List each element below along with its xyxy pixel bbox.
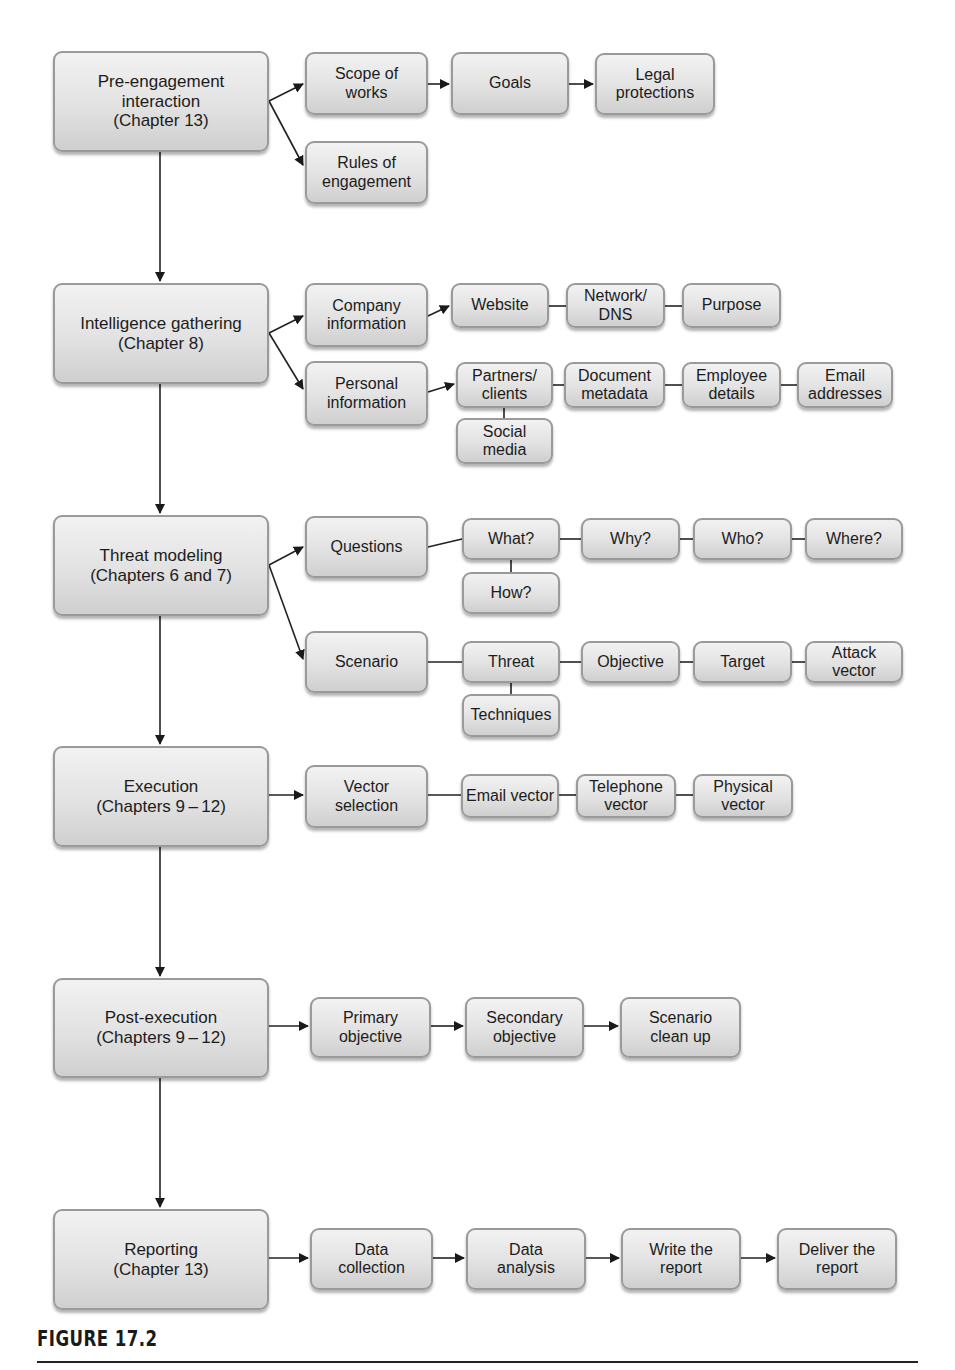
node-how: How? (462, 572, 560, 614)
node-where: Where? (805, 518, 903, 560)
node-data-analysis: Data analysis (466, 1228, 586, 1290)
phase-pre-engagement: Pre-engagement interaction (Chapter 13) (53, 51, 269, 152)
phase-post-execution: Post-execution (Chapters 9 – 12) (53, 978, 269, 1078)
node-social-media: Social media (456, 418, 553, 464)
node-what: What? (462, 518, 560, 560)
phase-execution: Execution (Chapters 9 – 12) (53, 746, 269, 847)
node-rules-of-engagement: Rules of engagement (305, 141, 428, 204)
node-scope-of-works: Scope of works (305, 52, 428, 115)
node-employee-details: Employee details (682, 362, 781, 408)
node-network-dns: Network/ DNS (566, 283, 665, 328)
node-company-information: Company information (305, 283, 428, 347)
node-vector-selection: Vector selection (305, 765, 428, 828)
node-document-metadata: Document metadata (564, 362, 665, 408)
node-who: Who? (693, 518, 792, 560)
node-target: Target (693, 641, 792, 683)
node-legal-protections: Legal protections (595, 53, 715, 115)
phase-threat-modeling: Threat modeling (Chapters 6 and 7) (53, 515, 269, 616)
node-write-the-report: Write the report (621, 1228, 741, 1290)
node-why: Why? (581, 518, 680, 560)
phase-reporting: Reporting (Chapter 13) (53, 1209, 269, 1310)
node-attack-vector: Attack vector (805, 641, 903, 683)
node-email-vector: Email vector (461, 774, 559, 818)
node-telephone-vector: Telephone vector (576, 774, 676, 818)
node-physical-vector: Physical vector (693, 774, 793, 818)
node-objective: Objective (581, 641, 680, 683)
node-secondary-objective: Secondary objective (465, 997, 584, 1058)
connector-lines (0, 0, 955, 1370)
node-scenario-clean-up: Scenario clean up (620, 997, 741, 1058)
node-purpose: Purpose (682, 283, 781, 328)
process-flow-diagram: Pre-engagement interaction (Chapter 13) … (0, 0, 955, 1370)
node-deliver-the-report: Deliver the report (777, 1228, 897, 1290)
node-website: Website (451, 283, 549, 328)
node-threat: Threat (462, 641, 560, 683)
node-scenario: Scenario (305, 631, 428, 693)
node-data-collection: Data collection (310, 1228, 433, 1290)
node-questions: Questions (305, 516, 428, 578)
node-email-addresses: Email addresses (797, 362, 893, 408)
figure-caption: FIGURE 17.2 (37, 1327, 158, 1351)
node-techniques: Techniques (462, 694, 560, 737)
node-personal-information: Personal information (305, 361, 428, 426)
caption-divider (37, 1361, 918, 1363)
node-primary-objective: Primary objective (310, 997, 431, 1058)
node-goals: Goals (451, 52, 569, 115)
phase-intelligence-gathering: Intelligence gathering (Chapter 8) (53, 283, 269, 384)
node-partners-clients: Partners/ clients (456, 362, 553, 408)
